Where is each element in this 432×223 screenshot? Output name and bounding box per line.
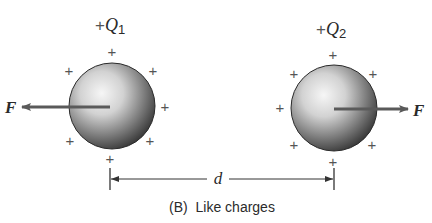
plus-sign: + bbox=[108, 43, 117, 60]
charge-2-label: +Q2 bbox=[316, 19, 346, 41]
charge-1: +Q1 + + + + + + + F bbox=[4, 15, 170, 167]
plus-sign: + bbox=[66, 132, 75, 149]
plus-sign: + bbox=[149, 62, 158, 79]
like-charges-diagram: +Q1 + + + + + + + F +Q2 + + + + + + + bbox=[0, 0, 432, 223]
charge-2-subscript: 2 bbox=[339, 26, 346, 41]
charge-1-sign: + bbox=[95, 16, 105, 35]
charge-1-symbol: Q bbox=[105, 15, 118, 35]
charge-1-subscript: 1 bbox=[118, 22, 125, 37]
charge-2-sign: + bbox=[316, 20, 326, 39]
plus-sign: + bbox=[65, 62, 74, 79]
force-label-right: F bbox=[412, 101, 425, 120]
figure-caption: (B) Like charges bbox=[169, 199, 275, 215]
plus-sign: + bbox=[329, 153, 338, 170]
force-label-left: F bbox=[4, 98, 17, 117]
plus-sign: + bbox=[369, 65, 378, 82]
plus-sign: + bbox=[276, 99, 285, 116]
charge-2: +Q2 + + + + + + + F bbox=[276, 19, 425, 170]
charge-1-label: +Q1 bbox=[95, 15, 125, 37]
plus-sign: + bbox=[161, 98, 170, 115]
distance-label: d bbox=[214, 169, 223, 188]
plus-sign: + bbox=[368, 136, 377, 153]
plus-sign: + bbox=[290, 65, 299, 82]
plus-sign: + bbox=[329, 46, 338, 63]
plus-sign: + bbox=[106, 150, 115, 167]
plus-sign: + bbox=[290, 136, 299, 153]
plus-sign: + bbox=[146, 132, 155, 149]
charge-2-symbol: Q bbox=[326, 19, 339, 39]
distance-dimension: d bbox=[110, 168, 334, 190]
